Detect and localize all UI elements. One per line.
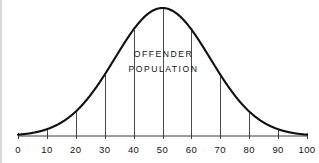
x-axis-tick-label-80: 80 bbox=[244, 144, 255, 155]
x-axis-tick-label-20: 20 bbox=[70, 144, 81, 155]
annotation-offender: OFFENDER bbox=[134, 49, 193, 59]
bell-curve-chart: 0102030405060708090100 OFFENDER POPULATI… bbox=[0, 0, 319, 163]
x-axis-tick-label-50: 50 bbox=[157, 144, 168, 155]
x-axis-tick-label-70: 70 bbox=[215, 144, 226, 155]
x-axis-tick-label-100: 100 bbox=[298, 144, 315, 155]
x-axis-tick-label-90: 90 bbox=[272, 144, 283, 155]
x-axis-tick-label-0: 0 bbox=[15, 144, 21, 155]
x-axis-tick-labels-group: 0102030405060708090100 bbox=[15, 144, 315, 155]
annotation-population: POPULATION bbox=[129, 64, 199, 74]
x-axis-tick-label-30: 30 bbox=[99, 144, 110, 155]
x-axis-tick-label-60: 60 bbox=[186, 144, 197, 155]
x-axis-tick-label-40: 40 bbox=[128, 144, 139, 155]
x-axis-tick-label-10: 10 bbox=[41, 144, 52, 155]
normal-distribution-figure: 0102030405060708090100 OFFENDER POPULATI… bbox=[0, 0, 319, 163]
